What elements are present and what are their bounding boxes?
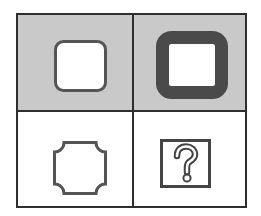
question-box — [160, 139, 211, 188]
cell-bottom-right — [133, 111, 245, 206]
rounded-square-thick-icon — [156, 31, 228, 99]
concave-corner-square-icon — [53, 141, 107, 195]
cell-bottom-left — [18, 111, 133, 206]
cell-top-right — [133, 15, 245, 111]
rounded-square-thin-icon — [54, 40, 107, 92]
analogy-grid — [16, 13, 247, 208]
cell-top-left — [18, 15, 133, 111]
horizontal-divider — [18, 110, 245, 112]
